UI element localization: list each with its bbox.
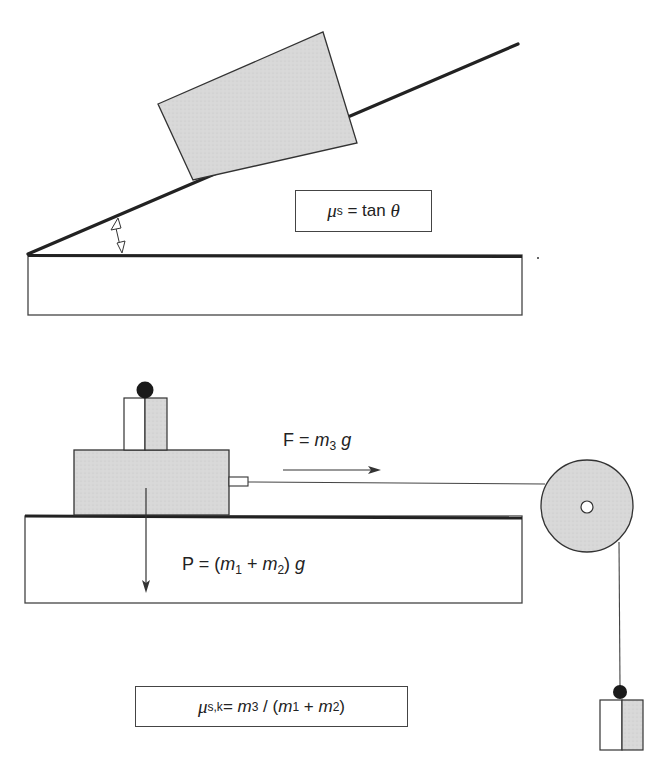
- weight-label: P = (m1 + m2) g: [182, 554, 305, 577]
- weight-m1-sub: 1: [235, 563, 242, 577]
- ball-weight-m3: [613, 685, 627, 699]
- weight-rhs: ): [284, 554, 295, 574]
- diagram-graphics: [0, 0, 669, 775]
- mu-symbol: μ: [327, 200, 337, 222]
- formula-m1: m: [278, 697, 292, 717]
- friction-diagram: μs = tan θ F = m3 g P = (m1 + m2) g μs,k…: [0, 0, 669, 775]
- formula-close: ): [339, 697, 345, 717]
- force-label: F = m3 g: [283, 430, 351, 453]
- formula-m1-sub: 1: [292, 700, 299, 714]
- sliding-block: [158, 32, 357, 180]
- weight-m1: m: [220, 554, 235, 574]
- block-m1: [74, 450, 229, 515]
- kinetic-friction-formula: μs,k= m3 / (m1 + m2): [135, 686, 408, 727]
- weight-lhs: P = (: [182, 554, 220, 574]
- block-m2: [124, 398, 167, 450]
- formula-m2-sub: 2: [333, 700, 340, 714]
- formula-m3: m: [238, 697, 252, 717]
- force-m: m: [315, 430, 330, 450]
- weight-g: g: [295, 554, 305, 574]
- force-lhs: F =: [283, 430, 315, 450]
- ball-weight-m2: [137, 382, 154, 399]
- horizontal-string: [248, 482, 545, 484]
- incline-base-table: [28, 255, 522, 315]
- mu-symbol: μ: [198, 696, 208, 718]
- hanging-block-m3: [600, 700, 643, 750]
- formula-m3-sub: 3: [252, 700, 259, 714]
- formula-m2: m: [318, 697, 332, 717]
- formula-plus: +: [299, 697, 318, 717]
- pulley-icon: [541, 460, 633, 552]
- angle-theta-arrow-icon: [111, 218, 125, 253]
- mu-subscript: s,k: [208, 700, 223, 714]
- weight-plus: +: [242, 554, 263, 574]
- static-friction-formula: μs = tan θ: [295, 190, 432, 232]
- weight-m2: m: [262, 554, 277, 574]
- stray-dot: [537, 257, 539, 259]
- hanging-string: [619, 542, 620, 686]
- force-g: g: [336, 430, 351, 450]
- formula-div: / (: [258, 697, 278, 717]
- string-hook: [229, 477, 248, 486]
- formula-eq: =: [223, 697, 238, 717]
- force-arrow-icon: [283, 466, 381, 474]
- theta-symbol: θ: [390, 200, 399, 222]
- formula-text: = tan: [343, 201, 391, 221]
